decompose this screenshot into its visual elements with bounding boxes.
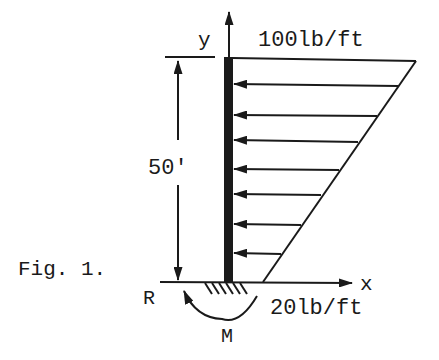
load-arrow [234, 84, 398, 86]
load-arrow [234, 253, 281, 254]
height-dimension-label: 50' [148, 156, 188, 181]
figure-caption: Fig. 1. [18, 258, 106, 281]
x-axis-label: x [360, 273, 373, 296]
moment-arc-icon [184, 291, 257, 320]
y-axis-label: y [198, 29, 211, 52]
fixed-support-hatch [205, 283, 247, 294]
reaction-label: R [143, 287, 155, 310]
load-arrow [234, 194, 321, 195]
free-body-diagram: y 100lb/ft 50' Fig. 1. x [0, 0, 439, 360]
load-arrow [234, 224, 301, 225]
distributed-load [232, 58, 416, 282]
vertical-beam [224, 57, 233, 283]
load-arrow [234, 169, 339, 170]
top-load-label: 100lb/ft [258, 28, 364, 53]
load-arrow [234, 140, 358, 142]
load-arrow [234, 115, 377, 116]
bottom-load-label: 20lb/ft [270, 296, 362, 321]
moment-label: M [221, 325, 233, 348]
x-axis [160, 282, 352, 283]
